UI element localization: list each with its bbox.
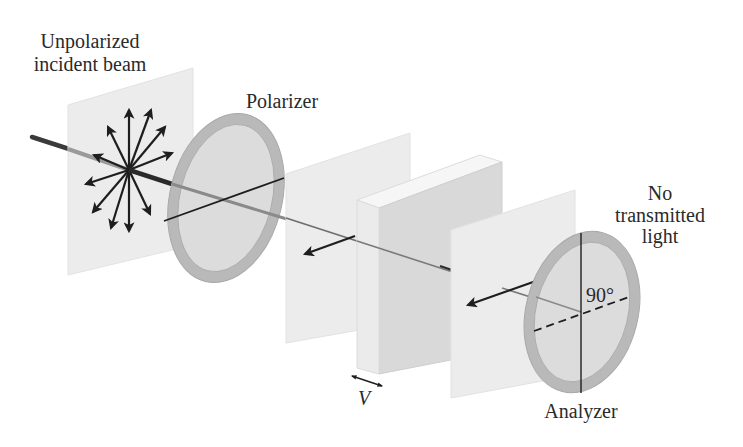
- voltage-label: V: [358, 387, 373, 409]
- incident-label-line1: Unpolarized: [41, 30, 140, 53]
- polarizer-label: Polarizer: [246, 90, 319, 112]
- incident-label-line2: incident beam: [34, 53, 147, 75]
- analyzer-label: Analyzer: [544, 400, 618, 423]
- no-light-label-line1: No: [648, 182, 672, 204]
- angle-label: 90°: [586, 284, 614, 306]
- no-light-label-line2: transmitted: [615, 204, 705, 226]
- voltage-arrow-icon: [352, 376, 382, 386]
- no-light-label-line3: light: [642, 225, 679, 248]
- pockels-cell-diagram: V 90° Unpolarized incident beam Polarize…: [0, 0, 743, 447]
